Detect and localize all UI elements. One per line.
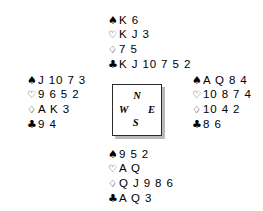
south-hearts-ranks: A Q: [119, 163, 141, 175]
spade-icon: ♠: [192, 75, 203, 86]
compass-label-south: S: [133, 118, 139, 129]
east-hearts-line: ♡ 10 8 7 4: [192, 88, 252, 103]
club-icon: ♣: [192, 119, 203, 130]
east-diamonds-ranks: 10 4 2: [203, 104, 240, 116]
west-spades-line: ♠ J 10 7 3: [27, 73, 86, 88]
north-spades-line: ♠ K 6: [108, 13, 191, 28]
compass-box: N W E S: [112, 84, 162, 136]
east-spades-line: ♠ A Q 8 4: [192, 73, 252, 88]
east-spades-ranks: A Q 8 4: [203, 75, 248, 87]
south-clubs-line: ♣ A Q 3: [108, 191, 174, 206]
west-clubs-ranks: 9 4: [38, 119, 57, 131]
club-icon: ♣: [27, 119, 38, 130]
south-spades-ranks: 9 5 2: [119, 149, 149, 161]
north-hearts-ranks: K J 3: [119, 29, 150, 41]
west-diamonds-ranks: A K 3: [38, 104, 70, 116]
spade-icon: ♠: [108, 15, 119, 26]
heart-icon: ♡: [192, 90, 203, 100]
west-hearts-line: ♡ 9 6 5 2: [27, 88, 86, 103]
south-diamonds-line: ♢ Q J 9 8 6: [108, 176, 174, 191]
north-diamonds-ranks: 7 5: [119, 44, 138, 56]
south-spades-line: ♠ 9 5 2: [108, 147, 174, 162]
north-clubs-ranks: K J 10 7 5 2: [119, 59, 191, 71]
heart-icon: ♡: [27, 90, 38, 100]
hand-west: ♠ J 10 7 3 ♡ 9 6 5 2 ♢ A K 3 ♣ 9 4: [27, 73, 86, 132]
hand-north: ♠ K 6 ♡ K J 3 ♢ 7 5 ♣ K J 10 7 5 2: [108, 13, 191, 72]
north-diamonds-line: ♢ 7 5: [108, 42, 191, 57]
south-diamonds-ranks: Q J 9 8 6: [119, 178, 174, 190]
bridge-deal-diagram: ♠ K 6 ♡ K J 3 ♢ 7 5 ♣ K J 10 7 5 2 ♠ J 1…: [0, 0, 263, 211]
north-clubs-line: ♣ K J 10 7 5 2: [108, 57, 191, 72]
club-icon: ♣: [108, 193, 119, 204]
east-diamonds-line: ♢ 10 4 2: [192, 102, 252, 117]
diamond-icon: ♢: [192, 105, 203, 115]
west-spades-ranks: J 10 7 3: [38, 75, 86, 87]
compass-label-east: E: [148, 105, 155, 116]
south-clubs-ranks: A Q 3: [119, 193, 152, 205]
west-clubs-line: ♣ 9 4: [27, 117, 86, 132]
east-clubs-line: ♣ 8 6: [192, 117, 252, 132]
diamond-icon: ♢: [108, 45, 119, 55]
diamond-icon: ♢: [27, 105, 38, 115]
south-hearts-line: ♡ A Q: [108, 162, 174, 177]
hand-south: ♠ 9 5 2 ♡ A Q ♢ Q J 9 8 6 ♣ A Q 3: [108, 147, 174, 206]
heart-icon: ♡: [108, 30, 119, 40]
north-spades-ranks: K 6: [119, 15, 139, 27]
diamond-icon: ♢: [108, 179, 119, 189]
east-clubs-ranks: 8 6: [203, 119, 222, 131]
heart-icon: ♡: [108, 164, 119, 174]
compass-frame: N W E S: [112, 84, 162, 136]
west-diamonds-line: ♢ A K 3: [27, 102, 86, 117]
compass-label-north: N: [133, 91, 141, 102]
west-hearts-ranks: 9 6 5 2: [38, 89, 79, 101]
compass-label-west: W: [119, 105, 128, 116]
spade-icon: ♠: [27, 75, 38, 86]
hand-east: ♠ A Q 8 4 ♡ 10 8 7 4 ♢ 10 4 2 ♣ 8 6: [192, 73, 252, 132]
club-icon: ♣: [108, 59, 119, 70]
east-hearts-ranks: 10 8 7 4: [203, 89, 252, 101]
north-hearts-line: ♡ K J 3: [108, 28, 191, 43]
spade-icon: ♠: [108, 149, 119, 160]
